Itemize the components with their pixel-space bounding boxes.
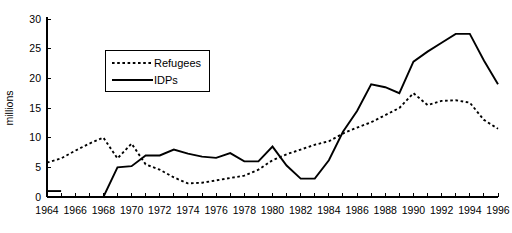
x-tick-label: 1970 — [120, 204, 144, 216]
legend-label-idps: IDPs — [154, 74, 178, 86]
x-tick-label: 1996 — [486, 204, 510, 216]
x-tick-label: 1974 — [176, 204, 200, 216]
y-axis-ticks: 051015202530 — [29, 13, 51, 203]
y-axis-title: millions — [3, 90, 15, 125]
chart-figure: 051015202530 196419661968197019721974197… — [0, 0, 512, 233]
x-tick-label: 1980 — [261, 204, 285, 216]
x-tick-label: 1964 — [35, 204, 59, 216]
series-line-refugees — [47, 93, 498, 183]
y-tick-label: 10 — [29, 131, 41, 143]
x-tick-label: 1994 — [458, 204, 482, 216]
x-tick-label: 1972 — [148, 204, 172, 216]
y-tick-label: 15 — [29, 102, 41, 114]
x-tick-label: 1968 — [92, 204, 116, 216]
chart-legend: RefugeesIDPs — [105, 50, 209, 91]
x-tick-label: 1990 — [402, 204, 426, 216]
y-tick-label: 5 — [35, 161, 41, 173]
y-tick-label: 25 — [29, 42, 41, 54]
legend-label-refugees: Refugees — [154, 57, 202, 69]
x-tick-label: 1966 — [64, 204, 88, 216]
x-tick-label: 1976 — [204, 204, 228, 216]
x-tick-label: 1978 — [233, 204, 257, 216]
y-tick-label: 0 — [35, 191, 41, 203]
x-tick-label: 1986 — [345, 204, 369, 216]
x-tick-label: 1982 — [289, 204, 313, 216]
y-tick-label: 20 — [29, 72, 41, 84]
x-tick-label: 1992 — [430, 204, 454, 216]
x-tick-label: 1984 — [317, 204, 341, 216]
x-tick-label: 1988 — [374, 204, 398, 216]
line-chart: 051015202530 196419661968197019721974197… — [0, 0, 512, 233]
y-tick-label: 30 — [29, 13, 41, 25]
